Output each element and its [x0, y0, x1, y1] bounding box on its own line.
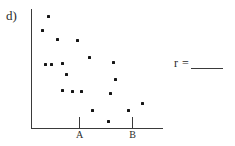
data-point — [61, 89, 64, 92]
x-axis-tick-label-b: B — [126, 129, 140, 140]
data-point — [65, 73, 68, 76]
answer-blank-line[interactable] — [191, 68, 223, 69]
data-point — [76, 39, 79, 42]
data-point — [56, 38, 59, 41]
data-point — [61, 62, 64, 65]
data-point — [141, 102, 144, 105]
correlation-answer-blank[interactable]: r = — [174, 54, 223, 70]
data-point — [91, 109, 94, 112]
x-axis-tick-label-a: A — [73, 129, 87, 140]
x-axis-tick-a — [79, 117, 80, 128]
data-point — [50, 63, 53, 66]
scatter-plot-figure: d) A B r = — [0, 0, 235, 146]
data-point — [80, 90, 83, 93]
data-point — [47, 15, 50, 18]
data-point — [127, 109, 130, 112]
data-point — [41, 29, 44, 32]
plot-area: A B — [0, 0, 235, 146]
data-point — [88, 56, 91, 59]
correlation-coefficient-label: r = — [174, 57, 189, 70]
data-point — [71, 90, 74, 93]
x-axis-tick-b — [132, 117, 133, 128]
data-point — [112, 61, 115, 64]
data-point — [44, 63, 47, 66]
y-axis — [31, 9, 32, 129]
data-point — [107, 120, 110, 123]
x-axis — [31, 128, 163, 129]
data-point — [109, 92, 112, 95]
data-point — [114, 78, 117, 81]
